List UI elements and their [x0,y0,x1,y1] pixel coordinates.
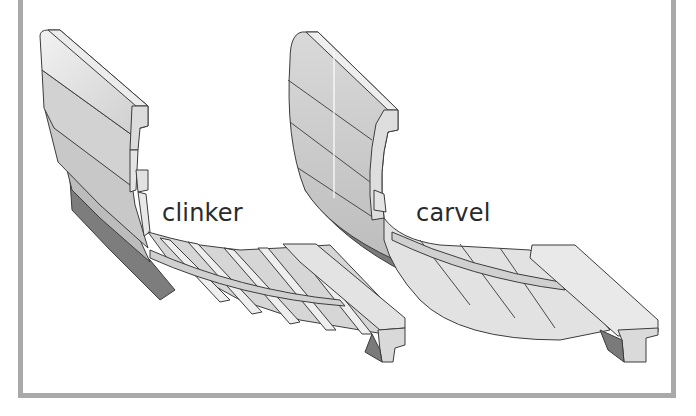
hull-planking-illustration [0,0,696,416]
carvel-label: carvel [416,201,491,225]
clinker-label: clinker [162,201,243,225]
